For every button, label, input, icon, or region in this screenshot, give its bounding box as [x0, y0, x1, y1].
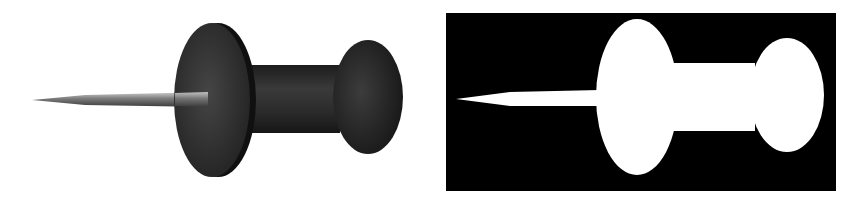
pin-knob	[333, 40, 403, 154]
pushpin-mask	[430, 0, 855, 199]
pushpin-photo-panel	[0, 0, 430, 199]
needle-base	[175, 92, 208, 107]
pushpin-mask-panel	[430, 0, 855, 199]
pin-body	[245, 65, 340, 133]
pushpin-photo	[0, 0, 430, 199]
